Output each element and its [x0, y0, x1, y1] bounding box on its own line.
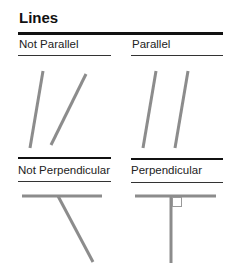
not-parallel-line-1	[30, 71, 43, 148]
not-parallel-line-2	[51, 74, 86, 145]
right-angle-marker	[173, 198, 182, 207]
not-perpendicular-slant	[58, 196, 93, 262]
parallel-line-2	[175, 71, 188, 148]
line-illustrations	[0, 0, 231, 276]
parallel-line-1	[143, 71, 156, 148]
